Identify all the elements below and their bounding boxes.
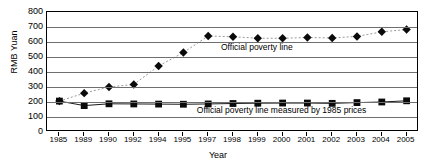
x-tick-label: 1985: [49, 135, 67, 144]
gridline: [47, 117, 417, 118]
x-tick-label: 1998: [223, 135, 241, 144]
annotation-official-poverty-line: Official poverty line: [221, 42, 293, 52]
data-point: [378, 28, 386, 36]
x-tick-label: 2002: [322, 135, 340, 144]
data-point: [80, 89, 88, 97]
poverty-line-chart: RMB Yuan 8007006005004003002001000 19851…: [0, 0, 436, 167]
gridline: [47, 87, 417, 88]
y-tick-label: 0: [3, 126, 43, 136]
data-point: [403, 97, 410, 104]
y-tick-label: 700: [3, 21, 43, 31]
y-tick-label: 200: [3, 96, 43, 106]
data-point: [229, 33, 237, 41]
x-tick-label: 1999: [248, 135, 266, 144]
x-tick-label: 2005: [397, 135, 415, 144]
y-tick-label: 300: [3, 81, 43, 91]
x-tick-label: 1995: [173, 135, 191, 144]
y-tick-label: 800: [3, 6, 43, 16]
gridline: [47, 27, 417, 28]
x-tick-label: 2004: [372, 135, 390, 144]
x-tick-label: 1994: [149, 135, 167, 144]
gridline: [47, 102, 417, 103]
annotation-official-poverty-line-1985-prices: Official poverty line measured by 1985 p…: [197, 105, 366, 115]
data-point: [353, 32, 361, 40]
x-tick-label: 1990: [99, 135, 117, 144]
x-tick-label: 1989: [74, 135, 92, 144]
gridline: [47, 57, 417, 58]
y-tick-label: 400: [3, 66, 43, 76]
x-tick-label: 2001: [297, 135, 315, 144]
data-point: [154, 62, 162, 70]
x-tick-label: 1992: [124, 135, 142, 144]
y-axis-tick-labels: 8007006005004003002001000: [0, 11, 43, 131]
data-point: [179, 48, 187, 56]
gridline: [47, 72, 417, 73]
data-point: [328, 34, 336, 42]
y-tick-label: 600: [3, 36, 43, 46]
x-tick-label: 1997: [198, 135, 216, 144]
x-axis-title: Year: [0, 150, 436, 160]
y-tick-label: 500: [3, 51, 43, 61]
data-point: [303, 33, 311, 41]
y-tick-label: 100: [3, 111, 43, 121]
x-axis-tick-labels: 1985198919901992199419951997199819992000…: [46, 132, 418, 148]
x-tick-label: 2000: [273, 135, 291, 144]
data-point: [204, 32, 212, 40]
data-point: [81, 102, 88, 109]
x-tick-label: 2003: [347, 135, 365, 144]
